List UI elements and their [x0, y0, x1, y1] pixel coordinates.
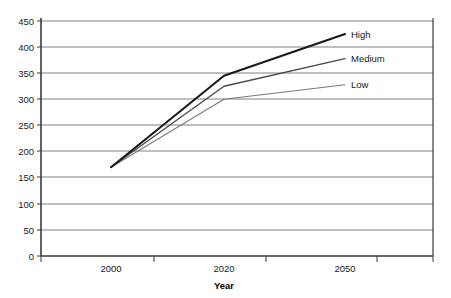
series-label-medium: Medium	[351, 53, 385, 64]
x-tick-label-2020: 2020	[213, 263, 234, 274]
y-tick-label-150: 150	[18, 172, 34, 183]
y-tick-label-50: 50	[23, 225, 34, 236]
y-tick-label-400: 400	[18, 42, 34, 53]
chart-canvas: 450 400 350 300 250 200 150 100 50 0 200…	[0, 0, 451, 298]
y-tick-label-250: 250	[18, 120, 34, 131]
y-tick-label-450: 450	[18, 16, 34, 27]
series-label-low: Low	[351, 79, 369, 90]
y-tick-label-0: 0	[29, 251, 34, 262]
x-tick-label-2050: 2050	[334, 263, 355, 274]
y-tick-label-200: 200	[18, 146, 34, 157]
x-axis-title: Year	[214, 280, 234, 291]
x-tick-label-2000: 2000	[100, 263, 121, 274]
y-tick-label-300: 300	[18, 94, 34, 105]
line-chart: 450 400 350 300 250 200 150 100 50 0 200…	[0, 0, 451, 298]
chart-background	[0, 0, 451, 298]
y-tick-label-100: 100	[18, 199, 34, 210]
series-label-high: High	[351, 29, 371, 40]
y-tick-label-350: 350	[18, 68, 34, 79]
